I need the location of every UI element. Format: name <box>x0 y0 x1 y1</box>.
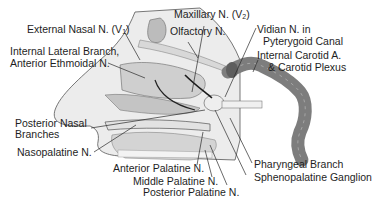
label-posterior-palatine-nerve: Posterior Palatine N. <box>143 186 239 198</box>
label-anterior-ethmoidal-nerve: Anterior Ethmoidal N. <box>10 57 110 69</box>
label-nasopalatine-nerve: Nasopalatine N. <box>17 146 92 158</box>
label-pharyngeal-branch: Pharyngeal Branch <box>254 158 343 170</box>
label-carotid-plexus: & Carotid Plexus <box>268 61 346 73</box>
label-maxillary-nerve: Maxillary N. (V2) <box>174 8 250 23</box>
label-external-nasal-nerve: External Nasal N. (V1) <box>27 23 130 38</box>
label-pterygoid-canal: Pyterygoid Canal <box>263 35 343 47</box>
label-vidian-nerve: Vidian N. in <box>257 23 311 35</box>
label-olfactory-nerve: Olfactory N. <box>170 25 225 37</box>
label-posterior-nasal-branches-2: Branches <box>15 128 59 140</box>
label-internal-carotid-artery: Internal Carotid A. <box>257 49 341 61</box>
nasal-nerve-diagram: External Nasal N. (V1) Internal Lateral … <box>0 0 375 203</box>
label-anterior-palatine-nerve: Anterior Palatine N. <box>113 162 204 174</box>
label-internal-lateral-branch: Internal Lateral Branch, <box>10 45 119 57</box>
label-sphenopalatine-ganglion: Sphenopalatine Ganglion <box>254 171 372 183</box>
